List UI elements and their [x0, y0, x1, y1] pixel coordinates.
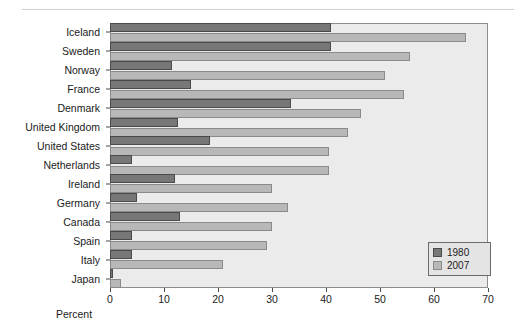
legend-swatch-1980-icon — [433, 248, 442, 257]
chart-legend: 1980 2007 — [428, 242, 491, 276]
bar-2007-ireland — [110, 184, 272, 193]
bar-1980-canada — [110, 212, 180, 221]
category-label-sweden: Sweden — [62, 46, 100, 57]
x-tick-label-0: 0 — [107, 293, 113, 305]
category-label-united-kingdom: United Kingdom — [25, 122, 100, 133]
category-label-canada: Canada — [63, 216, 100, 227]
legend-label-2007: 2007 — [447, 260, 469, 271]
y-tick-spain — [106, 240, 110, 241]
page-rule-divider — [22, 9, 514, 10]
bar-2007-italy — [110, 260, 223, 269]
x-axis-title-text: Percent — [56, 308, 92, 320]
y-tick-denmark — [106, 108, 110, 109]
bar-2007-united-states — [110, 147, 329, 156]
bar-2007-germany — [110, 203, 288, 212]
x-tick-label-60: 60 — [428, 293, 440, 305]
legend-item-1980: 1980 — [433, 246, 486, 259]
x-tick-label-50: 50 — [374, 293, 386, 305]
bar-2007-norway — [110, 71, 385, 80]
x-tick-30 — [272, 288, 273, 292]
x-tick-10 — [164, 288, 165, 292]
y-tick-iceland — [106, 32, 110, 33]
y-tick-netherlands — [106, 164, 110, 165]
legend-label-1980: 1980 — [447, 247, 469, 258]
x-tick-label-30: 30 — [266, 293, 278, 305]
y-tick-united-states — [106, 146, 110, 147]
legend-swatch-2007-icon — [433, 261, 442, 270]
bar-2007-france — [110, 90, 404, 99]
y-tick-ireland — [106, 183, 110, 184]
x-tick-label-70: 70 — [482, 293, 494, 305]
bar-1980-germany — [110, 193, 137, 202]
bar-1980-sweden — [110, 42, 331, 51]
x-tick-70 — [488, 288, 489, 292]
bar-2007-united-kingdom — [110, 128, 348, 137]
category-label-spain: Spain — [73, 235, 100, 246]
bar-2007-spain — [110, 241, 267, 250]
bar-chart-figure: IcelandSwedenNorwayFranceDenmarkUnited K… — [0, 0, 528, 332]
x-tick-50 — [380, 288, 381, 292]
category-label-denmark: Denmark — [57, 103, 100, 114]
y-tick-sweden — [106, 51, 110, 52]
bar-2007-denmark — [110, 109, 361, 118]
bar-1980-denmark — [110, 99, 291, 108]
category-label-germany: Germany — [57, 197, 100, 208]
bar-2007-iceland — [110, 33, 466, 42]
y-tick-canada — [106, 221, 110, 222]
y-tick-united-kingdom — [106, 127, 110, 128]
x-tick-20 — [218, 288, 219, 292]
category-label-norway: Norway — [64, 65, 100, 76]
bar-2007-japan — [110, 279, 121, 288]
bar-1980-norway — [110, 61, 172, 70]
legend-item-2007: 2007 — [433, 259, 486, 272]
bar-1980-iceland — [110, 23, 331, 32]
x-tick-label-10: 10 — [158, 293, 170, 305]
category-label-netherlands: Netherlands — [43, 159, 100, 170]
bar-1980-spain — [110, 231, 132, 240]
category-axis-labels: IcelandSwedenNorwayFranceDenmarkUnited K… — [0, 23, 106, 288]
y-tick-germany — [106, 202, 110, 203]
x-tick-label-20: 20 — [212, 293, 224, 305]
x-tick-0 — [110, 288, 111, 292]
bar-2007-canada — [110, 222, 272, 231]
bar-2007-sweden — [110, 52, 410, 61]
bar-1980-netherlands — [110, 155, 132, 164]
x-tick-60 — [434, 288, 435, 292]
bar-1980-united-states — [110, 136, 210, 145]
x-tick-label-40: 40 — [320, 293, 332, 305]
y-tick-japan — [106, 278, 110, 279]
y-tick-norway — [106, 70, 110, 71]
bar-2007-netherlands — [110, 166, 329, 175]
y-tick-france — [106, 89, 110, 90]
category-label-japan: Japan — [71, 273, 100, 284]
bar-1980-france — [110, 80, 191, 89]
y-tick-italy — [106, 259, 110, 260]
bar-1980-united-kingdom — [110, 118, 178, 127]
bar-1980-japan — [110, 269, 113, 278]
category-label-italy: Italy — [81, 254, 100, 265]
category-label-ireland: Ireland — [68, 178, 100, 189]
bar-1980-italy — [110, 250, 132, 259]
x-tick-40 — [326, 288, 327, 292]
category-label-france: France — [67, 84, 100, 95]
bar-1980-ireland — [110, 174, 175, 183]
category-label-united-states: United States — [37, 141, 100, 152]
category-label-iceland: Iceland — [66, 27, 100, 38]
x-axis-title: Percent — [0, 308, 528, 320]
